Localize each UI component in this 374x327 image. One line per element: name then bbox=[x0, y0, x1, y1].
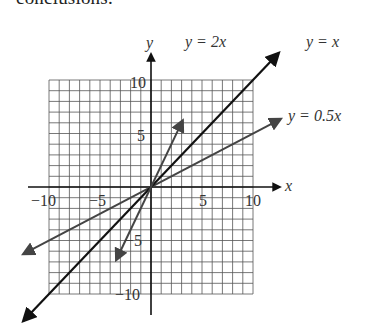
x-axis-label: x bbox=[284, 177, 292, 194]
y-tick-label: 10 bbox=[130, 74, 146, 91]
x-tick-label: −5 bbox=[89, 192, 106, 209]
x-tick-label: 5 bbox=[199, 192, 207, 209]
coordinate-plane: −10 −5 5 10 10 5 −5 −10 x y y = 2x y = x… bbox=[0, 0, 374, 327]
label-y-equals-x: y = x bbox=[304, 33, 339, 51]
y-tick-label: 5 bbox=[137, 127, 145, 144]
y-tick-label: −10 bbox=[115, 286, 140, 303]
y-tick-label: −5 bbox=[125, 232, 142, 249]
x-tick-label: −10 bbox=[31, 192, 56, 209]
label-y-equals-half-x: y = 0.5x bbox=[286, 107, 341, 125]
x-tick-label: 10 bbox=[245, 192, 261, 209]
y-axis-label: y bbox=[144, 34, 154, 52]
label-y-equals-2x: y = 2x bbox=[183, 33, 226, 51]
